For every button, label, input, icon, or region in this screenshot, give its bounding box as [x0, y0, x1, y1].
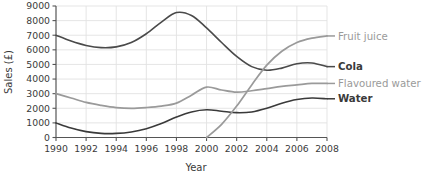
- x-tick-label: 2000: [195, 143, 219, 154]
- series-line-flavoured-water: [56, 83, 327, 108]
- y-tick-label: 9000: [26, 0, 50, 11]
- x-tick-label: 1990: [44, 143, 68, 154]
- y-tick-label: 2000: [26, 103, 50, 114]
- series-label-flavoured-water: Flavoured water: [338, 78, 421, 89]
- y-tick-label: 1000: [26, 117, 50, 128]
- x-tick-label: 2004: [255, 143, 279, 154]
- x-tick-label: 1996: [134, 143, 158, 154]
- series-lines: [56, 12, 327, 137]
- line-chart: 0100020003000400050006000700080009000 19…: [0, 0, 424, 175]
- series-label-water: Water: [338, 93, 373, 104]
- y-axis-tick-labels: 0100020003000400050006000700080009000: [26, 0, 50, 143]
- series-label-fruit-juice: Fruit juice: [338, 31, 388, 42]
- x-tick-label: 1992: [74, 143, 98, 154]
- y-tick-label: 7000: [26, 30, 50, 41]
- x-tick-label: 2008: [315, 143, 339, 154]
- y-axis-title: Sales (£): [3, 50, 14, 94]
- series-line-water: [56, 98, 327, 134]
- y-tick-label: 3000: [26, 88, 50, 99]
- series-labels: Fruit juiceColaFlavoured waterWater: [338, 31, 421, 105]
- chart-canvas: 0100020003000400050006000700080009000 19…: [0, 0, 424, 175]
- y-tick-label: 5000: [26, 59, 50, 70]
- gridlines: [56, 6, 327, 138]
- y-tick-label: 6000: [26, 44, 50, 55]
- x-tick-label: 2006: [285, 143, 309, 154]
- x-tick-label: 2002: [225, 143, 249, 154]
- y-tick-label: 0: [44, 132, 50, 143]
- x-axis-tick-labels: 1990199219941996199820002002200420062008: [44, 143, 339, 154]
- y-tick-label: 4000: [26, 73, 50, 84]
- x-axis-title: Year: [184, 162, 207, 173]
- x-tick-label: 1994: [104, 143, 128, 154]
- y-tick-label: 8000: [26, 15, 50, 26]
- legend-leader-lines: [327, 36, 335, 99]
- x-tick-label: 1998: [165, 143, 189, 154]
- series-label-cola: Cola: [338, 61, 363, 72]
